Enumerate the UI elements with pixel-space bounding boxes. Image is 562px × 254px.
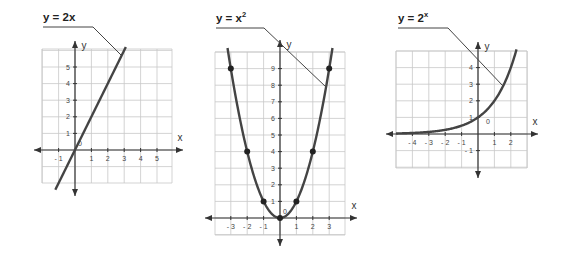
x-tick-label: 3 xyxy=(122,155,126,162)
data-point xyxy=(261,198,267,204)
data-point xyxy=(326,66,332,72)
y-tick-label: 2 xyxy=(271,181,275,188)
y-tick-label: 4 xyxy=(469,64,473,71)
y-tick-label: 4 xyxy=(66,80,70,87)
x-axis-arrow-right-icon xyxy=(531,131,538,137)
graph-title: y = 2x xyxy=(43,11,76,23)
y-axis-arrow-down-icon xyxy=(72,189,78,196)
y-axis-arrow-down-icon xyxy=(277,239,283,246)
x-tick-label: - 2 xyxy=(441,139,449,146)
function-curve xyxy=(396,49,517,133)
x-tick-label: - 4 xyxy=(408,139,416,146)
x-tick-label: - 1 xyxy=(260,223,268,230)
x-axis-arrow-right-icon xyxy=(176,147,183,153)
x-tick-label: - 3 xyxy=(425,139,433,146)
y-axis-arrow-up-icon xyxy=(475,42,481,49)
title-leader-line xyxy=(398,28,503,86)
grid xyxy=(42,49,172,183)
x-axis-arrow-left-icon xyxy=(386,131,393,137)
y-tick-label: 5 xyxy=(66,64,70,71)
chart-canvas: - 11234512345xy0y = 2x- 3- 2- 1123123456… xyxy=(0,0,562,254)
x-axis-label: x xyxy=(178,132,183,143)
x-tick-label: 4 xyxy=(139,155,143,162)
x-axis-arrow-right-icon xyxy=(350,215,357,221)
y-tick-label: 3 xyxy=(469,81,473,88)
x-tick-label: 3 xyxy=(327,223,331,230)
x-tick-label: - 3 xyxy=(227,223,235,230)
data-point xyxy=(244,149,250,155)
x-axis-label: x xyxy=(352,200,357,211)
y-tick-label: 1 xyxy=(66,130,70,137)
data-point xyxy=(277,215,283,221)
x-tick-label: 2 xyxy=(106,155,110,162)
x-tick-label: - 2 xyxy=(243,223,251,230)
graph-2: - 3- 2- 1123123456789xy0y = x2 xyxy=(205,10,357,246)
y-tick-label: 9 xyxy=(271,65,275,72)
graph-3: - 4- 3- 2- 112- 11234xy0y = 2x xyxy=(386,10,538,178)
y-tick-label: 3 xyxy=(271,165,275,172)
data-point xyxy=(293,198,299,204)
x-tick-label: 1 xyxy=(492,139,496,146)
x-tick-label: 2 xyxy=(509,139,513,146)
x-tick-label: - 1 xyxy=(458,139,466,146)
x-tick-label: 5 xyxy=(155,155,159,162)
y-tick-label: 5 xyxy=(271,132,275,139)
y-axis-label: y xyxy=(82,40,87,51)
y-axis-arrow-up-icon xyxy=(72,41,78,48)
y-tick-label: 1 xyxy=(271,198,275,205)
x-tick-label: 1 xyxy=(294,223,298,230)
graph-title: y = 2x xyxy=(398,10,429,24)
y-tick-label: 2 xyxy=(469,97,473,104)
x-tick-label: 2 xyxy=(311,223,315,230)
x-tick-label: - 1 xyxy=(55,155,63,162)
y-tick-label: 4 xyxy=(271,148,275,155)
y-axis-label: y xyxy=(287,39,292,50)
y-tick-label: 7 xyxy=(271,98,275,105)
x-axis-arrow-left-icon xyxy=(205,215,212,221)
x-axis-arrow-left-icon xyxy=(34,147,41,153)
graph-1: - 11234512345xy0y = 2x xyxy=(34,11,183,196)
y-tick-label: 2 xyxy=(66,113,70,120)
y-tick-label: 8 xyxy=(271,82,275,89)
x-axis-label: x xyxy=(533,116,538,127)
grid xyxy=(396,51,527,168)
y-axis-label: y xyxy=(485,41,490,52)
data-point xyxy=(228,66,234,72)
graph-title: y = x2 xyxy=(216,10,246,24)
data-point xyxy=(310,149,316,155)
x-tick-label: 1 xyxy=(89,155,93,162)
y-axis-arrow-down-icon xyxy=(475,171,481,178)
y-tick-label: 6 xyxy=(271,115,275,122)
origin-label: 0 xyxy=(486,118,490,125)
y-tick-label: - 1 xyxy=(465,147,473,154)
y-tick-label: 3 xyxy=(66,97,70,104)
